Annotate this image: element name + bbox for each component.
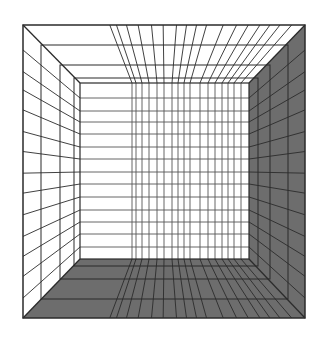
back-wall-face [80, 83, 249, 259]
room-drawing [0, 0, 327, 339]
perspective-room-figure: Perspective grid room (one-point perspec… [0, 0, 327, 339]
